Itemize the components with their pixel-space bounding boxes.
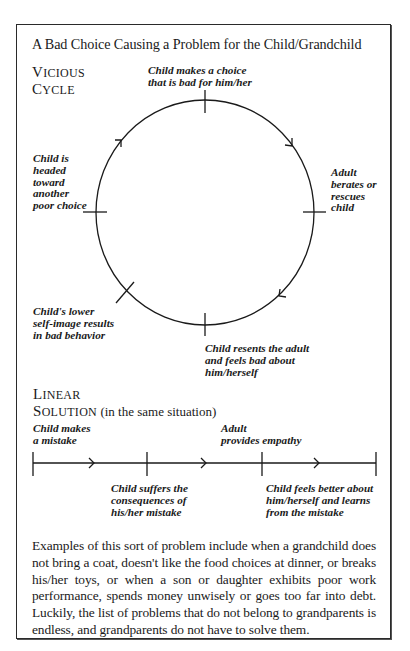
cycle-label-top: Child makes a choice that is bad for him… [148,65,252,89]
linear-solution-heading: LINEAR SOLUTION (in the same situation) [33,386,216,420]
cycle-circle [96,100,314,325]
linear-solution-heading-line1: LINEAR [33,386,216,403]
linear-step-2-label: Child suffers the consequences of his/he… [111,483,188,518]
heading-note: (in the same situation) [100,404,216,419]
linear-step-3-label: Adult provides empathy [221,423,301,447]
cycle-diagram [83,90,326,336]
heading-rest: OLUTION [42,405,97,419]
heading-initial: S [33,403,42,419]
body-paragraph: Examples of this sort of problem include… [32,538,376,639]
cycle-label-right: Adult berates or rescues child [331,167,377,214]
cycle-label-lower-left: Child's lower self-image results in bad … [33,306,114,341]
cycle-label-left: Child is headed toward another poor choi… [33,153,87,212]
linear-solution-heading-line2: SOLUTION (in the same situation) [33,403,216,420]
linear-step-4-label: Child feels better about him/herself and… [266,483,373,518]
heading-rest: INEAR [42,388,80,402]
linear-step-1-label: Child makes a mistake [33,423,91,447]
tick-lower-left [116,282,134,303]
arrow-lower-right-icon [279,289,286,297]
linear-diagram [33,452,376,476]
cycle-label-bottom: Child resents the adult and feels bad ab… [205,343,309,378]
